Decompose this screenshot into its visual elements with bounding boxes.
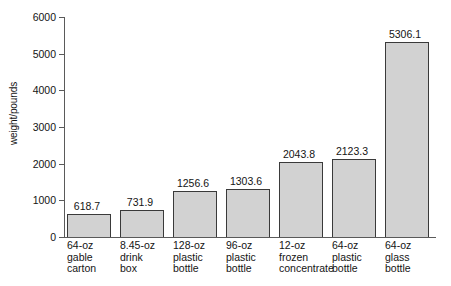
bar-slot: 618.7	[65, 17, 118, 237]
y-axis-title: weight/pounds	[8, 54, 19, 174]
category-label-line: bottle	[332, 263, 388, 275]
category-label-line: 64-oz	[67, 240, 123, 252]
bar-value-label: 1303.6	[218, 176, 274, 187]
bar[interactable]	[385, 42, 429, 237]
x-axis-line	[64, 237, 436, 238]
bar-slot: 2123.3	[330, 17, 383, 237]
y-tick-label: 0	[10, 232, 56, 242]
bar[interactable]	[120, 210, 164, 237]
x-axis-category-label: 64-ozglassbottle	[385, 240, 441, 275]
y-tick-label: 3000	[10, 122, 56, 132]
category-label-line: concentrate	[279, 263, 335, 275]
x-axis-category-label: 64-ozplasticbottle	[332, 240, 388, 275]
category-label-line: 8.45-oz	[120, 240, 176, 252]
x-axis-category-label: 128-ozplasticbottle	[173, 240, 229, 275]
bar[interactable]	[226, 189, 270, 237]
bar[interactable]	[279, 162, 323, 237]
bar-chart: weight/pounds 0100020003000400050006000 …	[0, 0, 451, 286]
bar-slot: 5306.1	[383, 17, 436, 237]
x-axis-category-label: 64-ozgablecarton	[67, 240, 123, 275]
bar-slot: 1303.6	[224, 17, 277, 237]
category-label-line: 96-oz	[226, 240, 282, 252]
x-axis-category-label: 8.45-ozdrinkbox	[120, 240, 176, 275]
category-label-line: 12-oz	[279, 240, 335, 252]
x-axis-category-labels: 64-ozgablecarton8.45-ozdrinkbox128-ozpla…	[64, 240, 451, 286]
bar-value-label: 2123.3	[324, 146, 380, 157]
y-tick-6000: 6000	[0, 17, 65, 18]
category-label-line: 64-oz	[332, 240, 388, 252]
y-tick-label: 4000	[10, 85, 56, 95]
y-tick-1000: 1000	[0, 200, 65, 201]
bar-value-label: 2043.8	[271, 149, 327, 160]
y-tick-3000: 3000	[0, 127, 65, 128]
y-tick-label: 1000	[10, 195, 56, 205]
bar-value-label: 618.7	[59, 201, 115, 212]
bar-value-label: 1256.6	[165, 178, 221, 189]
bar[interactable]	[173, 191, 217, 237]
bar-slot: 1256.6	[171, 17, 224, 237]
y-tick-label: 2000	[10, 159, 56, 169]
y-tick-4000: 4000	[0, 90, 65, 91]
category-label-line: 64-oz	[385, 240, 441, 252]
x-axis-category-label: 96-ozplasticbottle	[226, 240, 282, 275]
y-tick-label: 6000	[10, 12, 56, 22]
y-tick-2000: 2000	[0, 164, 65, 165]
bar-slot: 2043.8	[277, 17, 330, 237]
bar[interactable]	[67, 214, 111, 237]
bar-slot: 731.9	[118, 17, 171, 237]
y-tick-5000: 5000	[0, 54, 65, 55]
bar-value-label: 5306.1	[377, 29, 433, 40]
bar-value-label: 731.9	[112, 197, 168, 208]
x-axis-category-label: 12-ozfrozenconcentrate	[279, 240, 335, 275]
category-label-line: bottle	[385, 263, 441, 275]
category-label-line: carton	[67, 263, 123, 275]
plot-area: 618.7731.91256.61303.62043.82123.35306.1	[64, 17, 436, 237]
y-tick-label: 5000	[10, 49, 56, 59]
category-label-line: bottle	[226, 263, 282, 275]
category-label-line: box	[120, 263, 176, 275]
y-tick-0: 0	[0, 237, 65, 238]
bar[interactable]	[332, 159, 376, 237]
category-label-line: bottle	[173, 263, 229, 275]
category-label-line: 128-oz	[173, 240, 229, 252]
